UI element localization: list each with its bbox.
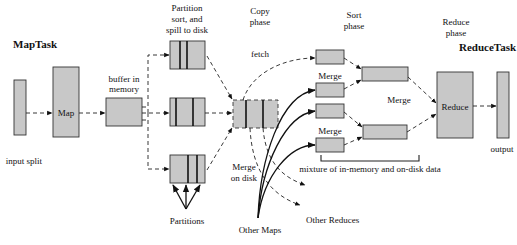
merge-on-disk-label-1: Merge — [232, 162, 255, 172]
other-reduces-arrow-1 — [250, 128, 300, 205]
mapreduce-shuffle-diagram: MapTask ReduceTask Partition sort, and s… — [0, 0, 517, 245]
to-reduce-arrow-top — [408, 77, 436, 103]
mixture-label: mixture of in-memory and on-disk data — [299, 164, 441, 174]
segment-box-4 — [316, 138, 344, 152]
map-task-title: MapTask — [13, 38, 58, 50]
svg-text:Copy: Copy — [250, 6, 270, 16]
spill-file-bottom — [170, 155, 205, 183]
merge-arrow-bottom — [207, 128, 232, 170]
merge-arrow-top — [207, 56, 232, 99]
reduce-label: Reduce — [442, 102, 469, 112]
svg-text:phase: phase — [250, 17, 271, 27]
output-box — [497, 72, 509, 138]
partitions-pointer-arrows — [173, 185, 200, 209]
svg-text:phase: phase — [344, 21, 365, 31]
other-reduces-arrow-2 — [263, 128, 305, 185]
reduce-phase-label: Reduce phase — [443, 17, 470, 38]
merged-segment-bottom — [363, 125, 407, 139]
partitions-label: Partitions — [170, 216, 205, 226]
map-box — [53, 67, 79, 137]
buffer-box — [106, 98, 142, 126]
mixture-bracket — [321, 155, 419, 161]
merged-segment-top — [362, 67, 408, 81]
svg-text:sort, and: sort, and — [172, 14, 203, 24]
sort-phase-label: Sort phase — [344, 10, 365, 31]
copy-phase-label: Copy phase — [250, 6, 271, 27]
merge-on-disk-label-2: on disk — [231, 173, 258, 183]
partition-phase-label: Partition sort, and spill to disk — [166, 3, 209, 35]
input-split-label: input split — [6, 156, 43, 166]
segment-box-3 — [316, 104, 344, 118]
to-reduce-arrow-bottom — [407, 114, 436, 132]
spill-arrow-bottom — [148, 113, 169, 169]
merged-map-output — [233, 100, 278, 128]
merge-label-middle: Merge — [387, 95, 410, 105]
spill-arrow-top — [148, 55, 169, 113]
map-label: Map — [58, 108, 75, 118]
spill-file-top — [170, 41, 205, 69]
spill-file-middle — [170, 98, 205, 126]
merge-label-bottom: Merge — [318, 126, 341, 136]
buffer-label-2: memory — [109, 84, 139, 94]
input-split-box — [14, 80, 26, 135]
svg-text:Reduce: Reduce — [443, 17, 470, 27]
other-maps-label: Other Maps — [239, 225, 282, 235]
merge-label-top: Merge — [318, 71, 341, 81]
svg-text:phase: phase — [446, 28, 467, 38]
svg-text:spill to disk: spill to disk — [166, 25, 209, 35]
svg-text:Sort: Sort — [346, 10, 362, 20]
segment-box-2 — [316, 83, 344, 97]
other-reduces-label: Other Reduces — [306, 215, 360, 225]
svg-text:Partition: Partition — [172, 3, 203, 13]
segment-box-1 — [316, 50, 344, 64]
fetch-label: fetch — [251, 49, 269, 59]
reduce-task-title: ReduceTask — [459, 41, 517, 53]
buffer-label-1: buffer in — [108, 74, 140, 84]
output-label: output — [490, 144, 514, 154]
